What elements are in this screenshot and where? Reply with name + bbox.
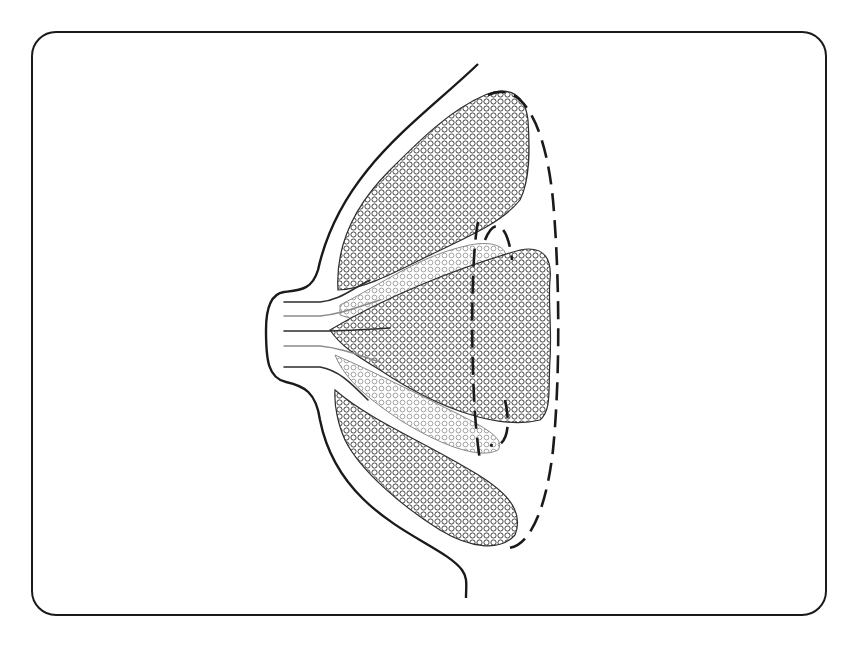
diagram-canvas — [0, 0, 857, 647]
breast-anatomy-diagram — [0, 0, 857, 647]
